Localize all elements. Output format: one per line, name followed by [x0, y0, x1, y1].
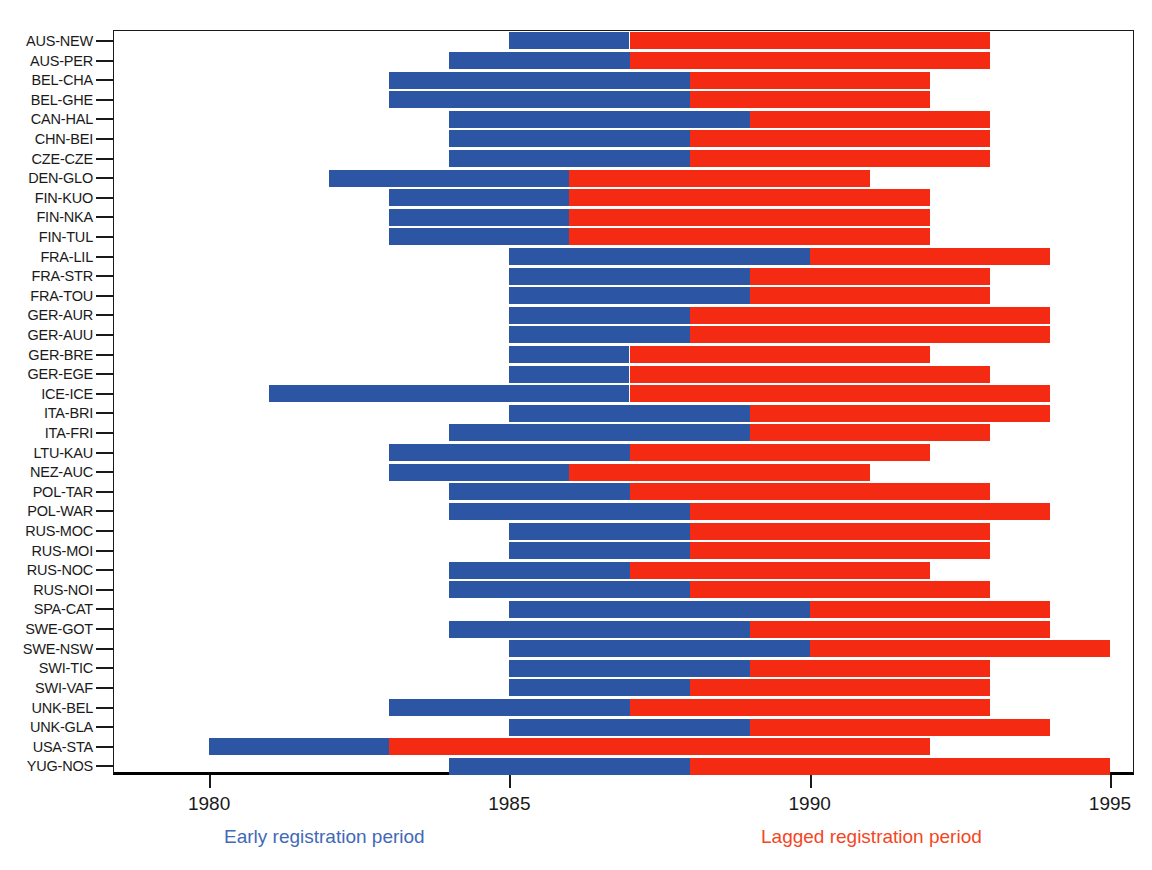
- y-axis-tick-mark: [96, 197, 113, 199]
- bar-segment-lagged: [569, 170, 869, 187]
- bar-segment-early: [389, 228, 569, 245]
- bar-segment-lagged: [810, 640, 1110, 657]
- bar-row: [113, 638, 1134, 660]
- y-axis-tick-bel-ghe: BEL-GHE: [0, 89, 113, 111]
- y-axis-tick-mark: [96, 491, 113, 493]
- bar-segment-early: [509, 601, 809, 618]
- bar-row: [113, 30, 1134, 52]
- bar-segment-lagged: [690, 91, 930, 108]
- y-axis-label: CZE-CZE: [32, 151, 96, 167]
- y-axis-tick-bel-cha: BEL-CHA: [0, 69, 113, 91]
- bar-segment-early: [509, 405, 749, 422]
- bar-segment-lagged: [690, 503, 1050, 520]
- y-axis-label: FRA-STR: [32, 268, 96, 284]
- bar-row: [113, 520, 1134, 542]
- bar-segment-lagged: [750, 111, 990, 128]
- y-axis-tick-mark: [96, 236, 113, 238]
- y-axis-label: SWE-NSW: [23, 641, 96, 657]
- x-axis-tick-label: 1980: [188, 793, 230, 815]
- y-axis-tick-mark: [96, 158, 113, 160]
- y-axis-tick-pol-tar: POL-TAR: [0, 481, 113, 503]
- y-axis-label: SWE-GOT: [25, 621, 96, 637]
- bar-segment-lagged: [630, 32, 990, 49]
- y-axis-tick-swi-tic: SWI-TIC: [0, 657, 113, 679]
- bar-segment-lagged: [569, 464, 869, 481]
- y-axis-label: GER-AUR: [28, 307, 96, 323]
- bar-segment-early: [449, 483, 629, 500]
- bar-row: [113, 285, 1134, 307]
- bar-segment-lagged: [569, 209, 929, 226]
- y-axis-label: ITA-FRI: [45, 425, 96, 441]
- bar-segment-lagged: [690, 72, 930, 89]
- x-axis-tick-mark: [209, 775, 211, 788]
- bar-segment-lagged: [630, 366, 990, 383]
- y-axis-tick-mark: [96, 608, 113, 610]
- y-axis-label: RUS-MOI: [32, 543, 96, 559]
- bar-segment-early: [509, 326, 689, 343]
- bar-segment-lagged: [569, 228, 929, 245]
- bar-row: [113, 50, 1134, 72]
- bar-row: [113, 599, 1134, 621]
- y-axis-tick-mark: [96, 138, 113, 140]
- bar-segment-early: [509, 719, 749, 736]
- bar-row: [113, 344, 1134, 366]
- y-axis-tick-fra-tou: FRA-TOU: [0, 285, 113, 307]
- y-axis-tick-ltu-kau: LTU-KAU: [0, 442, 113, 464]
- bar-row: [113, 677, 1134, 699]
- y-axis-tick-ita-fri: ITA-FRI: [0, 422, 113, 444]
- y-axis-tick-mark: [96, 550, 113, 552]
- y-axis-label: GER-BRE: [28, 347, 96, 363]
- y-axis-tick-usa-sta: USA-STA: [0, 736, 113, 758]
- bar-segment-early: [389, 444, 629, 461]
- y-axis-label: ITA-BRI: [44, 405, 96, 421]
- x-axis-tick-mark: [509, 775, 511, 788]
- y-axis-tick-spa-cat: SPA-CAT: [0, 599, 113, 621]
- bar-segment-lagged: [630, 346, 930, 363]
- bar-row: [113, 89, 1134, 111]
- bar-segment-early: [509, 268, 749, 285]
- y-axis-tick-rus-noc: RUS-NOC: [0, 559, 113, 581]
- bar-segment-lagged: [630, 52, 990, 69]
- y-axis-label: RUS-MOC: [25, 523, 96, 539]
- bar-segment-early: [449, 503, 689, 520]
- bar-segment-lagged: [630, 562, 930, 579]
- bar-segment-early: [389, 209, 569, 226]
- y-axis-tick-rus-moi: RUS-MOI: [0, 540, 113, 562]
- y-axis-label: FIN-NKA: [36, 209, 96, 225]
- y-axis-tick-mark: [96, 354, 113, 356]
- y-axis-tick-swe-nsw: SWE-NSW: [0, 638, 113, 660]
- bar-segment-early: [449, 621, 749, 638]
- x-axis-tick-label: 1990: [789, 793, 831, 815]
- y-axis-label: DEN-GLO: [28, 170, 96, 186]
- bar-segment-early: [329, 170, 569, 187]
- bar-segment-early: [509, 346, 629, 363]
- y-axis-tick-mark: [96, 216, 113, 218]
- y-axis-tick-fra-str: FRA-STR: [0, 265, 113, 287]
- bar-row: [113, 579, 1134, 601]
- bar-segment-early: [509, 523, 689, 540]
- legend-lagged-registration-period: Lagged registration period: [761, 826, 982, 848]
- bar-row: [113, 657, 1134, 679]
- y-axis-tick-mark: [96, 373, 113, 375]
- y-axis-tick-ita-bri: ITA-BRI: [0, 403, 113, 425]
- y-axis-tick-cze-cze: CZE-CZE: [0, 148, 113, 170]
- bar-segment-lagged: [690, 523, 990, 540]
- y-axis-tick-mark: [96, 99, 113, 101]
- bar-segment-lagged: [690, 130, 990, 147]
- y-axis-tick-unk-bel: UNK-BEL: [0, 697, 113, 719]
- y-axis-tick-can-hal: CAN-HAL: [0, 108, 113, 130]
- registration-period-timeline-chart: AUS-NEWAUS-PERBEL-CHABEL-GHECAN-HALCHN-B…: [0, 0, 1152, 870]
- y-axis-label: USA-STA: [33, 739, 96, 755]
- bar-segment-lagged: [750, 424, 990, 441]
- y-axis-label: SPA-CAT: [34, 601, 96, 617]
- y-axis-label: POL-WAR: [27, 503, 96, 519]
- bar-segment-early: [389, 72, 689, 89]
- y-axis-tick-ger-aur: GER-AUR: [0, 304, 113, 326]
- bar-row: [113, 383, 1134, 405]
- bar-row: [113, 246, 1134, 268]
- y-axis-tick-swi-vaf: SWI-VAF: [0, 677, 113, 699]
- bar-segment-early: [449, 581, 689, 598]
- y-axis-tick-aus-per: AUS-PER: [0, 50, 113, 72]
- y-axis-tick-mark: [96, 569, 113, 571]
- bar-segment-lagged: [389, 738, 930, 755]
